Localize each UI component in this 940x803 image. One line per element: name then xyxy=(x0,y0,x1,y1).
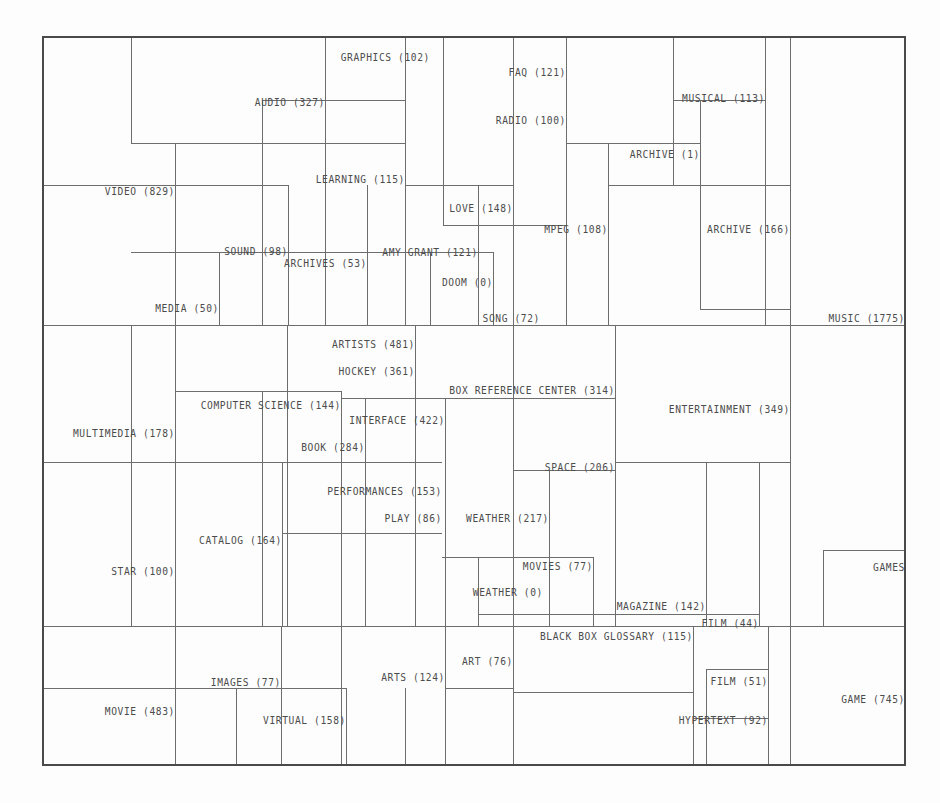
treemap-cell-label: RADIO (100) xyxy=(496,115,566,126)
treemap-cell-label: MAGAZINE (142) xyxy=(617,601,706,612)
treemap-cell-label: BOOK (284) xyxy=(301,442,365,453)
treemap-cell-label: AMY GRANT (121) xyxy=(382,247,478,258)
treemap-cell-label: IMAGES (77) xyxy=(211,677,281,688)
treemap-cell-label: FILM (44) xyxy=(702,618,759,629)
treemap-cell-label: COMPUTER SCIENCE (144) xyxy=(201,400,341,411)
treemap-cell-label: PLAY (86) xyxy=(385,513,442,524)
treemap-cell-label: MPEG (108) xyxy=(544,224,608,235)
treemap-cell-label: MOVIE (483) xyxy=(105,706,175,717)
treemap-cell-label: MUSIC (1775) xyxy=(828,313,905,324)
treemap-cell-label: GAME (745) xyxy=(841,694,905,705)
treemap-svg: GRAPHICS (102)FAQ (121)AUDIO (327)RADIO … xyxy=(0,0,940,803)
treemap-cell-label: MULTIMEDIA (178) xyxy=(73,428,175,439)
treemap-cell-label: VIRTUAL (158) xyxy=(263,715,346,726)
treemap-cell-label: FAQ (121) xyxy=(509,67,566,78)
treemap-labels: GRAPHICS (102)FAQ (121)AUDIO (327)RADIO … xyxy=(73,52,905,726)
treemap-cell-label: FILM (51) xyxy=(711,676,768,687)
treemap-cell-label: ARCHIVES (53) xyxy=(284,258,367,269)
treemap-cell-label: DOOM (0) xyxy=(442,277,493,288)
treemap-cell-label: MOVIES (77) xyxy=(523,561,593,572)
treemap-cell-label: SOUND (98) xyxy=(224,246,288,257)
treemap-cell-label: HYPERTEXT (92) xyxy=(679,715,768,726)
treemap-cell-label: SPACE (206) xyxy=(545,462,615,473)
treemap-cell-label: ARTISTS (481) xyxy=(332,339,415,350)
treemap-cell-label: STAR (100) xyxy=(111,566,175,577)
treemap-cell-label: CATALOG (164) xyxy=(199,535,282,546)
treemap-cell-label: PERFORMANCES (153) xyxy=(327,486,442,497)
treemap-cell-label: LEARNING (115) xyxy=(316,174,405,185)
treemap-cell-label: ARCHIVE (166) xyxy=(707,224,790,235)
treemap-cell-label: MEDIA (50) xyxy=(155,303,219,314)
treemap-canvas: GRAPHICS (102)FAQ (121)AUDIO (327)RADIO … xyxy=(0,0,940,803)
treemap-cell-label: SONG (72) xyxy=(483,313,540,324)
treemap-cell-label: ARCHIVE (1) xyxy=(630,149,700,160)
treemap-cell-label: WEATHER (0) xyxy=(473,587,543,598)
treemap-cell-label: HOCKEY (361) xyxy=(338,366,415,377)
treemap-cell-label: BLACK BOX GLOSSARY (115) xyxy=(540,631,693,642)
treemap-cell-label: AUDIO (327) xyxy=(255,97,325,108)
treemap-cell-label: ART (76) xyxy=(462,656,513,667)
treemap-cell-label: WEATHER (217) xyxy=(466,513,549,524)
treemap-cell-label: BOX REFERENCE CENTER (314) xyxy=(449,385,615,396)
treemap-cell-label: ARTS (124) xyxy=(381,672,445,683)
treemap-cell-label: MUSICAL (113) xyxy=(682,93,765,104)
treemap-cell-label: GRAPHICS (102) xyxy=(341,52,430,63)
treemap-cell-label: ENTERTAINMENT (349) xyxy=(669,404,790,415)
treemap-cell-label: LOVE (148) xyxy=(449,203,513,214)
treemap-cell-label: INTERFACE (422) xyxy=(349,415,445,426)
treemap-cell-label: GAMES xyxy=(873,562,905,573)
treemap-cell-label: VIDEO (829) xyxy=(105,186,175,197)
